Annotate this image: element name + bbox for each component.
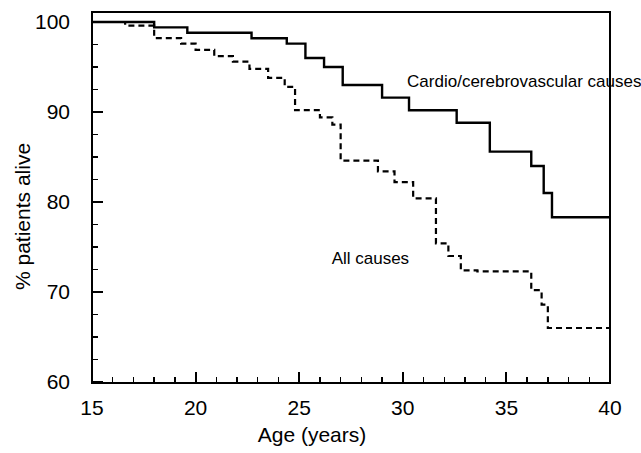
x-tick-label: 40 <box>598 397 622 418</box>
y-tick-label: 90 <box>22 101 70 122</box>
series-label-cardio-cerebrovascular: Cardio/cerebrovascular causes <box>407 73 641 90</box>
x-tick-label: 30 <box>391 397 415 418</box>
x-tick-label: 15 <box>80 397 104 418</box>
x-tick-label: 20 <box>184 397 208 418</box>
series-label-all-causes: All causes <box>332 250 409 267</box>
series-path-all-causes <box>92 22 610 328</box>
x-axis-major-ticks <box>92 372 610 383</box>
y-tick-label: 60 <box>22 371 70 392</box>
x-tick-label: 35 <box>494 397 518 418</box>
data-series-layer <box>92 22 610 328</box>
series-path-cardio-cerebrovascular <box>92 22 610 217</box>
y-axis-major-ticks <box>92 22 103 382</box>
y-tick-label: 100 <box>22 11 70 32</box>
axis-frame <box>92 12 610 383</box>
x-axis-title: Age (years) <box>0 424 624 445</box>
x-tick-label: 25 <box>287 397 311 418</box>
y-axis-title: % patients alive <box>12 143 33 290</box>
